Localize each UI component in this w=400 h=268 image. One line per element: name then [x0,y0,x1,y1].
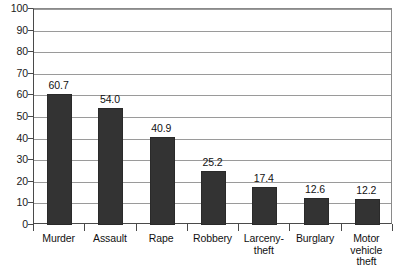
x-axis-tick-mark [33,224,34,231]
y-axis-tick-label: 10 [4,197,28,207]
gridline [34,9,391,10]
y-axis-tick-mark [28,224,33,225]
bar [252,187,277,225]
y-axis-tick-label: 30 [4,154,28,164]
x-axis-label-line: Murder [33,233,84,245]
bar-value-label: 17.4 [239,173,289,184]
x-axis-tick-mark [136,224,137,231]
x-axis-category-label: Rape [136,233,187,245]
x-axis-tick-mark [341,224,342,231]
gridline [34,31,391,32]
x-axis-label-line: Burglary [289,233,340,245]
y-axis-tick-label: 70 [4,68,28,78]
y-axis: 0102030405060708090100 [0,0,28,260]
y-axis-tick-mark [28,51,33,52]
x-axis-label-line: Motor [341,233,392,245]
y-axis-tick-mark [28,30,33,31]
y-axis-tick-mark [28,116,33,117]
y-axis-tick-mark [28,202,33,203]
x-axis-label-line: theft [238,245,289,257]
x-axis-category-label: Burglary [289,233,340,245]
bar [98,108,123,225]
y-axis-tick-label: 20 [4,176,28,186]
y-axis-tick-label: 90 [4,25,28,35]
y-axis-tick-mark [28,159,33,160]
x-axis-tick-mark [238,224,239,231]
y-axis-tick-label: 80 [4,46,28,56]
x-axis-tick-mark [289,224,290,231]
bar-value-label: 54.0 [85,94,135,105]
gridline [34,139,391,140]
x-axis-label-line: Rape [136,233,187,245]
y-axis-tick-label: 60 [4,89,28,99]
x-axis-category-label: Robbery [187,233,238,245]
x-axis-category-label: Assault [84,233,135,245]
bar [355,199,380,225]
x-axis-category-label: Motorvehicle theft [341,233,392,268]
x-axis-label-line: Larceny- [238,233,289,245]
x-axis-label-line: vehicle theft [341,245,392,268]
bar [47,94,72,225]
bar-value-label: 40.9 [136,123,186,134]
y-axis-tick-mark [28,181,33,182]
x-axis-category-label: Larceny-theft [238,233,289,256]
gridline [34,117,391,118]
y-axis-tick-label: 0 [4,219,28,229]
bar [201,171,226,225]
gridline [34,52,391,53]
x-axis-category-label: Murder [33,233,84,245]
y-axis-tick-mark [28,94,33,95]
y-axis-tick-mark [28,73,33,74]
bar-value-label: 12.6 [290,184,340,195]
y-axis-tick-label: 40 [4,133,28,143]
gridline [34,74,391,75]
bar-value-label: 60.7 [34,80,84,91]
bar-value-label: 12.2 [341,185,391,196]
x-axis-tick-mark [84,224,85,231]
y-axis-tick-label: 100 [4,3,28,13]
bar [150,137,175,225]
y-axis-tick-label: 50 [4,111,28,121]
x-axis-label-line: Robbery [187,233,238,245]
y-axis-tick-mark [28,138,33,139]
bar [304,198,329,225]
y-axis-tick-mark [28,8,33,9]
x-axis-tick-mark [187,224,188,231]
bar-value-label: 25.2 [188,157,238,168]
x-axis-tick-mark [392,224,393,231]
x-axis-label-line: Assault [84,233,135,245]
